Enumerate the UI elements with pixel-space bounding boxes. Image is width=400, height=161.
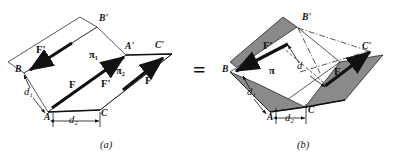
vector-label-F-middle-a: F (69, 79, 75, 90)
vector-label-Fprime-b: F' (263, 40, 272, 51)
point-label-A-a: A (44, 112, 50, 122)
vector-label-F-b: F (334, 66, 340, 77)
point-label-A-b: A (267, 112, 273, 122)
plane-label-pi2: π₂ (116, 65, 125, 76)
point-label-B-b: B (222, 64, 228, 74)
vector-label-Fprime-upper-a: F' (36, 44, 45, 55)
point-label-Aprime-a: A' (125, 41, 134, 51)
distance-label-d2-b: d₂ (285, 112, 294, 123)
panel-caption-b: (b) (297, 139, 309, 150)
distance-label-d1-b: d₁ (247, 86, 256, 97)
relation-equals-sign: = (193, 57, 206, 83)
point-label-Cprime-b: C' (362, 41, 371, 51)
panel-caption-a: (a) (100, 139, 112, 150)
point-label-B-a: B (15, 64, 21, 74)
distance-label-d-b: d (297, 60, 302, 71)
plane-label-pi: π (269, 65, 275, 76)
plane-label-pi1: π₁ (89, 49, 98, 60)
vector-label-F-right-a: F (145, 75, 151, 86)
distance-label-d2-a: d₂ (69, 114, 78, 125)
figure-canvas: = B' A' C' B A C π₁ π₂ F' F F' F d₁ d₂ (… (0, 0, 400, 161)
point-label-Bprime-b: B' (302, 12, 311, 22)
point-label-C-a: C (101, 108, 107, 118)
point-label-Cprime-a: C' (155, 40, 164, 50)
point-label-Bprime-a: B' (99, 13, 108, 23)
panel-a-geometry (8, 17, 172, 127)
vector-label-Fprime-middle-a: F' (101, 78, 110, 89)
point-label-C-b: C (308, 105, 314, 115)
panel-b-geometry (230, 17, 383, 124)
distance-label-d1-a: d₁ (24, 86, 33, 97)
